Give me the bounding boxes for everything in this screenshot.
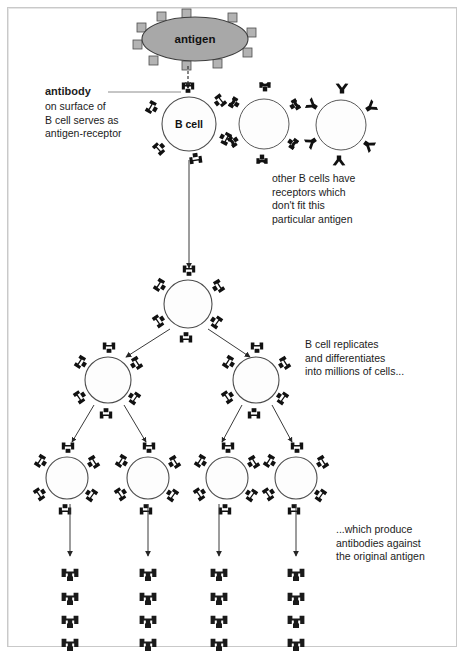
antibody-label-title: antibody xyxy=(45,85,91,99)
arrow-gen3r-to-gen4c xyxy=(222,405,242,442)
bcell-gen3-left xyxy=(73,343,144,419)
diagram-stage: antigen B cell xyxy=(0,0,468,658)
bcell-nonmatching-2 xyxy=(304,83,379,165)
arrow-gen2-to-gen3-left xyxy=(126,329,170,357)
arrow-gen2-to-gen3-right xyxy=(208,329,250,357)
bcell-gen4-3-body xyxy=(206,457,248,499)
bcell-nonmatching-1 xyxy=(227,82,301,163)
bcell-gen3-right xyxy=(221,343,292,419)
antigen-group: antigen xyxy=(133,9,256,70)
bcell-gen3-right-body xyxy=(233,357,279,403)
production-label: ...which produce antibodies against the … xyxy=(336,523,466,564)
bcell-gen4-3 xyxy=(193,443,261,515)
antibody-column-2 xyxy=(140,569,157,651)
bcell-gen2 xyxy=(152,266,226,343)
antibody-column-4 xyxy=(288,569,305,651)
bcell-nonmatching-1-body xyxy=(239,99,289,149)
bcell-gen4-4-body xyxy=(275,457,317,499)
arrow-gen3l-to-gen4a xyxy=(72,405,94,442)
bcell-gen4-1 xyxy=(33,443,101,515)
bcell-gen2-body xyxy=(164,280,212,328)
arrow-gen3r-to-gen4d xyxy=(272,405,292,442)
bcell-gen4-2-body xyxy=(127,457,169,499)
bcell-gen4-4 xyxy=(262,443,330,515)
antibody-column-3 xyxy=(211,569,228,651)
antibody-label-body: on surface of B cell serves as antigen-r… xyxy=(45,100,160,141)
other-bcells-label: other B cells have receptors which don't… xyxy=(272,172,397,226)
antigen-label: antigen xyxy=(175,33,216,45)
bcell-gen3-left-body xyxy=(85,357,131,403)
arrow-gen3l-to-gen4b xyxy=(124,405,146,442)
replication-label: B cell replicates and differentiates int… xyxy=(305,338,440,379)
bcell-gen4-1-body xyxy=(46,457,88,499)
bcell-primary-label: B cell xyxy=(175,118,203,130)
bcell-nonmatching-2-body xyxy=(316,100,366,150)
antibody-column-1 xyxy=(62,569,79,651)
bcell-gen4-2 xyxy=(114,443,182,515)
